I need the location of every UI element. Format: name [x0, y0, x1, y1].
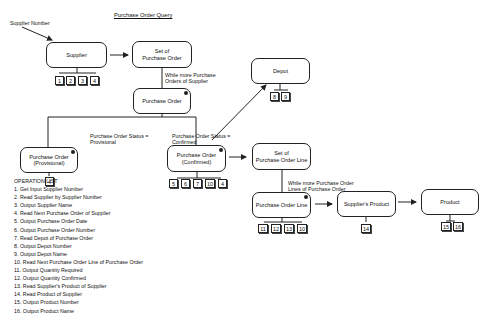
node-label: Purchase Order [142, 98, 181, 104]
node-supplier: Supplier [46, 42, 107, 68]
label-status-provisional: Purchase Order Status = Provisional [90, 133, 148, 145]
list-item: 16. Output Product Name [14, 307, 143, 315]
op-box: 2 [66, 76, 75, 85]
node-label: Set of Purchase Order [142, 48, 181, 60]
node-product: Product [421, 189, 479, 215]
node-label: Product [440, 199, 459, 205]
op-box: 11 [258, 224, 268, 233]
node-purchase-order: Purchase Order [133, 88, 191, 114]
node-set-pol: Set of Purchase Order Line [252, 143, 311, 170]
list-item: 7. Read Depot of Purchase Order [14, 234, 143, 242]
list-item: 1. Get Input Supplier Number [14, 185, 143, 193]
node-po-confirmed: Purchase Order (Confirmed) [167, 145, 226, 172]
op-box: 7 [193, 179, 202, 188]
node-label: Supplier [66, 52, 87, 58]
list-item: 4. Read Next Purchase Order of Supplier [14, 209, 143, 217]
node-suppliers-product: Supplier's Product [337, 191, 396, 217]
list-item: 9. Output Depot Name [14, 250, 143, 258]
node-depot: Depot [251, 58, 310, 84]
node-po-provisional: Purchase Order (Provisional) [20, 147, 78, 173]
list-item: 13. Read Supplier's Product of Supplier [14, 282, 143, 290]
node-label: Purchase Order (Provisional) [29, 154, 68, 166]
list-item: 12. Output Quantity Confirmed [14, 274, 143, 282]
node-label: Set of Purchase Order Line [256, 150, 308, 162]
node-label: Purchase Order (Confirmed) [177, 152, 216, 164]
list-item: 10. Read Next Purchase Order Line of Pur… [14, 258, 143, 266]
op-box: 10 [205, 179, 215, 188]
operation-list: OPERATION LIST 1. Get Input Supplier Num… [14, 177, 143, 315]
operation-list-heading: OPERATION LIST [14, 177, 143, 185]
list-item: 2. Read Supplier by Supplier Number [14, 193, 143, 201]
op-box: 3 [78, 76, 87, 85]
op-box: 4 [90, 76, 99, 85]
op-box: 4 [218, 179, 227, 188]
op-box: 12 [271, 224, 281, 233]
list-item: 14. Read Product of Supplier [14, 290, 143, 298]
op-box: 5 [169, 179, 178, 188]
node-label: Supplier's Product [344, 201, 389, 207]
node-label: Purchase Order Line [256, 202, 308, 208]
op-box: 14 [361, 224, 371, 233]
node-set-po: Set of Purchase Order [132, 41, 192, 68]
op-box: 1 [55, 76, 64, 85]
node-po-line: Purchase Order Line [252, 192, 311, 218]
list-item: 5. Output Purchase Order Date [14, 217, 143, 225]
input-label: Supplier Number [10, 20, 50, 26]
label-while-pol: While more Purchase Order Lines of Purch… [288, 180, 354, 192]
op-box: 8 [270, 92, 279, 101]
page-title: Purchase Order Query [114, 12, 172, 18]
list-item: 3. Output Supplier Name [14, 201, 143, 209]
list-item: 15. Output Product Number [14, 298, 143, 306]
list-item: 6. Output Purchase Order Number [14, 226, 143, 234]
node-label: Depot [273, 68, 288, 74]
op-box: 15 [441, 222, 451, 231]
op-box: 16 [453, 222, 463, 231]
label-status-confirmed: Purchase Order Status = Confirmed [172, 133, 230, 145]
list-item: 8. Output Depot Number [14, 242, 143, 250]
op-box: 10 [297, 224, 307, 233]
op-box: 9 [281, 92, 290, 101]
list-item: 11. Output Quantity Required [14, 266, 143, 274]
label-while-po: While more Purchase Orders of Supplier [165, 72, 216, 84]
op-box: 6 [181, 179, 190, 188]
op-box: 13 [284, 224, 294, 233]
